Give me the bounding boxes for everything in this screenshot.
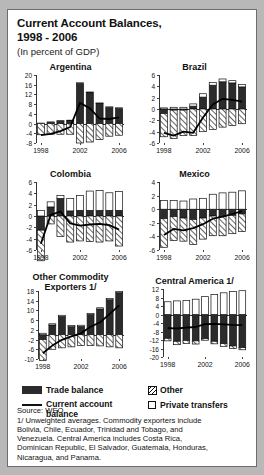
- bar-segment: [86, 210, 93, 216]
- bar-segment: [164, 338, 171, 341]
- y-axis-tick-label: -16: [139, 345, 159, 352]
- plot-area-mexico: 420-2-4-6199820022006: [159, 182, 247, 250]
- bar-segment: [220, 293, 227, 315]
- bar-segment: [239, 87, 246, 109]
- bar-segment: [174, 301, 181, 315]
- bar-segment: [96, 191, 103, 211]
- bar-segment: [116, 216, 123, 246]
- x-axis-tick-label: 2006: [235, 254, 250, 261]
- chart-panel-mexico: Mexico 420-2-4-6199820022006: [133, 168, 256, 275]
- y-axis-tick-label: -6: [135, 140, 155, 147]
- x-tick: [119, 250, 120, 252]
- bar-segment: [106, 335, 113, 347]
- x-axis-tick-label: 2006: [235, 361, 250, 368]
- y-axis-tick-label: -4: [135, 128, 155, 135]
- y-tick: [157, 143, 159, 144]
- bar-segment: [230, 292, 237, 315]
- x-tick: [203, 250, 204, 252]
- bar-segment: [229, 215, 236, 233]
- bar-segment: [76, 124, 83, 143]
- x-tick: [203, 143, 204, 145]
- bar-segment: [229, 109, 236, 125]
- bar-segment: [67, 211, 74, 216]
- bar-segment: [192, 341, 199, 344]
- bar-segment: [57, 196, 64, 199]
- y-axis-tick-label: 2: [135, 94, 155, 101]
- y-tick: [161, 357, 163, 358]
- bar-segment: [190, 219, 197, 244]
- bar-segment: [211, 295, 218, 315]
- bar-segment: [202, 315, 209, 339]
- y-axis-tick-label: 20: [12, 72, 32, 79]
- x-tick: [80, 250, 81, 252]
- x-axis-tick-label: 2002: [72, 254, 87, 261]
- bar-segment: [219, 82, 226, 109]
- bar-segment: [160, 109, 167, 114]
- bar-segment: [87, 335, 94, 346]
- bar-segment: [96, 104, 103, 124]
- bar-segment: [219, 109, 226, 127]
- y-axis-tick-label: 14: [14, 297, 34, 304]
- x-tick: [242, 250, 243, 252]
- y-axis-tick-label: 0: [12, 120, 32, 127]
- bar-segment: [78, 325, 85, 326]
- y-tick: [34, 250, 36, 251]
- bar-segment: [49, 324, 56, 325]
- y-axis-tick-label: -4: [12, 130, 32, 137]
- x-tick: [80, 143, 81, 145]
- plot-area-central-america: 12840-4-8-12-16-20199820022006: [163, 289, 247, 357]
- bar-segment: [239, 291, 246, 315]
- y-axis-tick-label: 0: [135, 106, 155, 113]
- y-axis-tick-label: 6: [12, 179, 32, 186]
- y-axis-tick-label: 16: [12, 81, 32, 88]
- bar-segment: [116, 210, 123, 216]
- bar-segment: [39, 333, 46, 334]
- series-layer: [163, 289, 247, 357]
- bar-segment: [116, 109, 123, 124]
- panel-title-line1: Other Commodity: [8, 272, 133, 282]
- y-axis-tick-label: -4: [135, 233, 155, 240]
- bar-segment: [160, 209, 167, 219]
- bar-segment: [160, 200, 167, 209]
- x-tick: [119, 359, 120, 361]
- bar-segment: [230, 315, 237, 346]
- x-axis-tick-label: 1998: [33, 147, 48, 154]
- bar-segment: [239, 109, 246, 124]
- x-axis-tick-label: 2006: [112, 363, 127, 370]
- bar-segment: [87, 313, 94, 314]
- x-axis-tick-label: 1998: [156, 147, 171, 154]
- bar-segment: [164, 302, 171, 315]
- bar-segment: [202, 297, 209, 315]
- bar-segment: [86, 216, 93, 242]
- bar-segment: [239, 315, 246, 348]
- chart-panel-brazil: Brazil 6420-2-4-6199820022006: [133, 61, 256, 168]
- bar-segment: [170, 107, 177, 109]
- y-axis-tick-label: -6: [12, 247, 32, 254]
- bar-segment: [209, 209, 216, 216]
- y-axis-tick-label: -6: [135, 247, 155, 254]
- bar-segment: [239, 214, 246, 232]
- y-axis-tick-label: 4: [135, 179, 155, 186]
- bar-segment: [211, 341, 218, 344]
- y-axis-tick-label: 8: [12, 101, 32, 108]
- figure-title-line1: Current Account Balances,: [17, 17, 256, 31]
- bar-segment: [57, 216, 64, 236]
- bar-segment: [199, 218, 206, 239]
- bar-segment: [219, 193, 226, 209]
- x-axis-tick-label: 2002: [197, 361, 212, 368]
- x-axis-tick-label: 1998: [160, 361, 175, 368]
- bar-segment: [199, 198, 206, 209]
- y-tick: [157, 250, 159, 251]
- y-axis-tick-label: -12: [139, 337, 159, 344]
- y-axis-tick-label: 12: [12, 91, 32, 98]
- x-tick: [205, 357, 206, 359]
- figure-title: Current Account Balances, 1998 - 2006: [17, 17, 256, 44]
- legend-label-trade-balance: Trade balance: [46, 385, 103, 395]
- plot-area-colombia: 6420-2-4-6199820022006: [36, 182, 124, 250]
- source-line3: Bolivia, Chile, Ecuador, Trinidad and To…: [17, 425, 250, 434]
- plot-area-other-commodity-exporters: 18141062-2-6-10199820022006: [38, 291, 124, 359]
- x-axis-tick-label: 2002: [73, 363, 88, 370]
- panel-title-brazil: Brazil: [133, 62, 256, 72]
- bar-segment: [170, 209, 177, 216]
- y-axis-tick-label: 2: [135, 192, 155, 199]
